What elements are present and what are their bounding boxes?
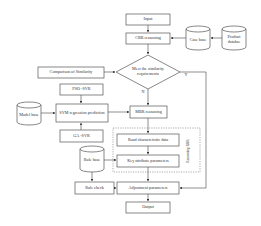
rule-base-label: Rule base [82,153,102,167]
no-label: N [140,89,146,95]
decision-label: Meet the similarity requirements [130,63,166,81]
ga-svr-label: GA -SVR [60,130,103,142]
rule-check-label: Rule check [75,182,114,194]
road-data-label: Road characteristic data [117,134,179,146]
cbr-label: CBR reasoning [126,33,170,44]
comparison-label: Comparison of Similarity [38,67,104,78]
adjust-label: Adjustment parameters [117,182,179,194]
key-params-label: Key attribute parameters [117,155,179,167]
mbr-label: MBR reasoning [130,106,167,118]
output-label: Output [126,202,170,213]
product-db-label: Product databse [224,33,244,47]
model-base-label: Model base [19,108,39,122]
yes-label: Y [183,72,189,78]
input-label: Input [126,14,170,25]
case-base-label: Case base [188,33,208,47]
svm-label: SVM regression prediction [56,104,108,122]
pso-svr-label: PSO -SVR [60,84,103,95]
rbr-group-label: Reasoning RBR [183,133,193,169]
